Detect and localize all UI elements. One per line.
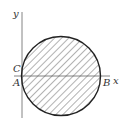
diagram-canvas: y x C A B xyxy=(0,0,129,129)
point-label-c: C xyxy=(13,64,21,74)
point-label-a: A xyxy=(13,78,20,88)
x-axis-label: x xyxy=(113,76,119,86)
circle-hatch-fill xyxy=(20,35,102,117)
point-label-b: B xyxy=(103,78,110,88)
y-axis-label: y xyxy=(13,9,19,19)
